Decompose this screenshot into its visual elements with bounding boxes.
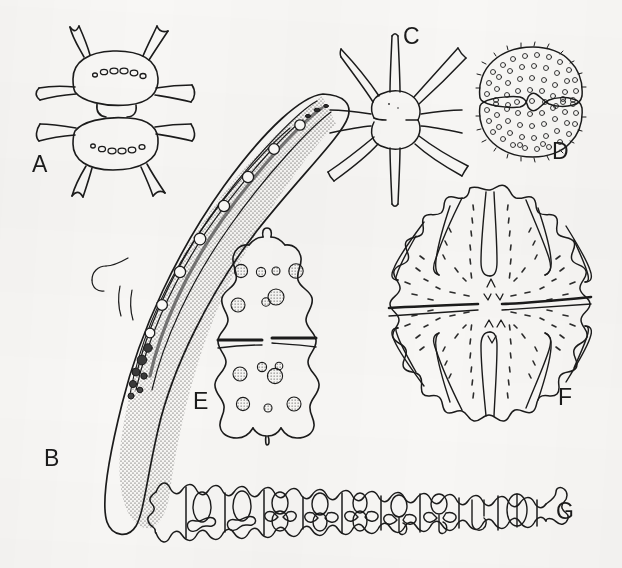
panel-label-c: C <box>403 25 420 48</box>
panel-c-drawing <box>328 34 468 207</box>
panel-label-b: B <box>44 447 60 470</box>
granule-field-upper <box>485 53 579 109</box>
panel-label-d: D <box>552 140 569 163</box>
panel-b-drawing <box>92 80 360 550</box>
panel-a-drawing <box>36 26 194 197</box>
panel-label-g: G <box>556 500 574 523</box>
plate-drawing <box>0 0 622 568</box>
figure-plate: A B C D E F G <box>0 0 622 568</box>
panel-label-f: F <box>558 386 573 409</box>
panel-g-drawing <box>148 483 568 542</box>
panel-d-drawing <box>476 42 586 162</box>
panel-label-a: A <box>32 153 48 176</box>
panel-label-e: E <box>193 390 209 413</box>
